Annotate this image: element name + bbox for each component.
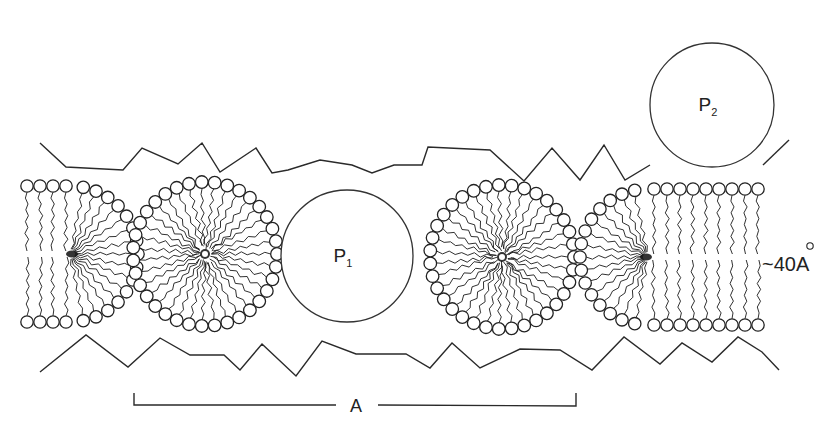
protein-p2-circle	[650, 43, 774, 167]
protein-p1-circle	[281, 190, 413, 322]
bottom-zigzag-boundary	[40, 335, 779, 376]
thickness-label: ~40A	[762, 253, 810, 275]
thickness-annotation: ~40A	[762, 243, 813, 275]
protein-p2: P2	[650, 43, 774, 167]
micelle-1	[127, 176, 283, 332]
micelle-2	[424, 179, 580, 335]
period-bracket: A	[134, 393, 576, 416]
top-zigzag-boundary	[40, 143, 650, 181]
period-bracket-left	[134, 393, 336, 405]
top-right-zigzag-boundary	[763, 140, 789, 165]
protein-p1: P1	[281, 190, 413, 322]
period-bracket-right	[378, 393, 576, 406]
angstrom-ring-icon	[807, 243, 813, 249]
right-cylindrical-lipid-aggregate	[574, 183, 764, 331]
period-label: A	[350, 396, 362, 416]
lipid-phase-diagram: P1 P2 ~40A A	[0, 0, 831, 427]
left-half-cylinder-lipid	[21, 180, 144, 328]
